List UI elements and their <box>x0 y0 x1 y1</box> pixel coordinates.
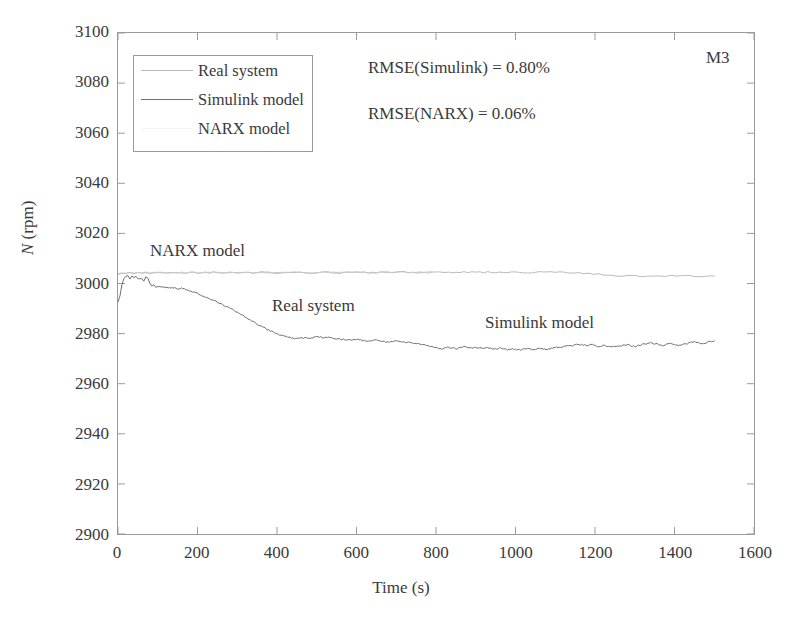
figure-root: 2900292029402960298030003020304030603080… <box>0 0 802 630</box>
x-tick-label-400: 400 <box>247 544 307 561</box>
y-tick-label-2960: 2960 <box>43 375 109 392</box>
y-tick-label-3060: 3060 <box>43 124 109 141</box>
legend-label-simulink-model: Simulink model <box>198 90 304 110</box>
panel-id-label: M3 <box>706 48 730 68</box>
y-tick-label-2920: 2920 <box>43 476 109 493</box>
y-tick-label-2980: 2980 <box>43 325 109 342</box>
x-tick-label-800: 800 <box>406 544 466 561</box>
x-tick-label-1200: 1200 <box>566 544 626 561</box>
y-tick-label-3100: 3100 <box>43 23 109 40</box>
legend-line-swatch-simulink-model <box>141 94 193 106</box>
y-tick-label-3000: 3000 <box>43 275 109 292</box>
legend-item-narx-model: NARX model <box>134 114 312 143</box>
y-tick-label-3040: 3040 <box>43 174 109 191</box>
curve-annotation-simulink-model: Simulink model <box>485 313 594 333</box>
legend-label-narx-model: NARX model <box>198 119 290 139</box>
x-tick-label-1600: 1600 <box>725 544 785 561</box>
x-axis-label: Time (s) <box>0 578 802 598</box>
legend-item-simulink-model: Simulink model <box>134 85 312 114</box>
x-tick-label-1000: 1000 <box>486 544 546 561</box>
legend-line-swatch-real-system <box>141 65 193 77</box>
x-tick-label-0: 0 <box>87 544 147 561</box>
x-tick-label-600: 600 <box>326 544 386 561</box>
y-tick-label-3020: 3020 <box>43 224 109 241</box>
rmse-narx-annotation: RMSE(NARX) = 0.06% <box>368 104 536 124</box>
rmse-simulink-annotation: RMSE(Simulink) = 0.80% <box>368 58 550 78</box>
legend-line-swatch-narx-model <box>141 123 193 135</box>
legend: Real system Simulink model NARX model <box>133 55 313 152</box>
y-tick-label-2900: 2900 <box>43 526 109 543</box>
y-tick-label-3080: 3080 <box>43 73 109 90</box>
legend-label-real-system: Real system <box>198 61 278 81</box>
y-axis-label: N (rpm) <box>18 201 38 255</box>
x-tick-label-200: 200 <box>167 544 227 561</box>
curve-annotation-narx-model: NARX model <box>150 241 245 261</box>
legend-item-real-system: Real system <box>134 56 312 85</box>
series-line-simulink-model <box>118 276 714 351</box>
y-tick-label-2940: 2940 <box>43 425 109 442</box>
y-axis-label-unit: (rpm) <box>18 201 37 244</box>
curve-annotation-real-system: Real system <box>272 296 355 316</box>
x-tick-label-1400: 1400 <box>645 544 705 561</box>
y-axis-label-symbol: N <box>18 244 37 255</box>
